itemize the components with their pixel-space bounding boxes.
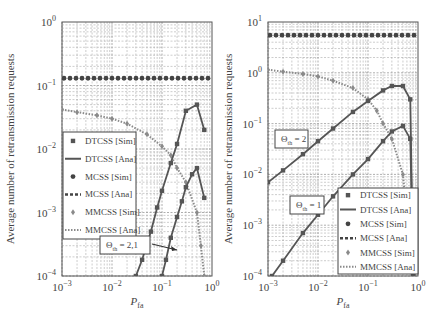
dtcss-marker xyxy=(169,236,173,240)
mcss-marker xyxy=(188,76,193,81)
mcss-marker xyxy=(74,76,79,81)
y-tick-label: 10−2 xyxy=(36,141,56,155)
mcss-marker xyxy=(80,76,85,81)
mmcss-marker xyxy=(199,243,203,249)
legend-label: MCSS [Ana] xyxy=(85,189,132,199)
mmcss-marker xyxy=(195,210,199,216)
dtcss-marker xyxy=(401,84,405,88)
dtcss-marker xyxy=(160,189,164,193)
y-tick-label: 10−3 xyxy=(36,205,56,219)
x-tick-label: 10−3 xyxy=(52,279,72,293)
dtcss-marker xyxy=(401,124,405,128)
mmcss-marker xyxy=(95,112,99,118)
dtcss-marker xyxy=(316,139,320,143)
threshold-annotation: Θth = 2 xyxy=(275,130,308,148)
mcss-marker xyxy=(406,33,411,38)
y-tick-label: 10−4 xyxy=(36,268,56,282)
mcss-marker xyxy=(92,76,97,81)
dtcss-marker xyxy=(202,128,206,132)
mcss-marker xyxy=(334,33,339,38)
threshold-annotation: Θth = 1 xyxy=(290,196,324,214)
dtcss-marker xyxy=(164,258,168,262)
dtcss-marker xyxy=(270,274,274,278)
legend-label: MMCSS [Sim] xyxy=(360,248,415,258)
dtcss-marker xyxy=(281,168,285,172)
mcss-marker xyxy=(116,76,121,81)
mmcss-marker xyxy=(390,136,394,142)
legend-square-icon xyxy=(71,139,75,143)
y-tick-label: 10−3 xyxy=(242,217,262,231)
mcss-marker xyxy=(140,76,145,81)
mcss-marker xyxy=(170,76,175,81)
dtcss-marker xyxy=(175,142,179,146)
mmcss-marker xyxy=(75,109,79,115)
dtcss-marker xyxy=(160,274,164,278)
mcss-marker xyxy=(376,33,381,38)
dtcss-marker xyxy=(381,88,385,92)
dtcss-line xyxy=(162,168,204,276)
mcss-marker xyxy=(110,76,115,81)
mmcss-marker xyxy=(266,67,270,73)
legend: DTCSS [Sim]DTCSS [Ana]MCSS [Sim]MCSS [An… xyxy=(63,132,140,239)
dtcss-marker xyxy=(408,137,412,141)
y-tick-label: 10−2 xyxy=(242,166,262,180)
mcss-marker xyxy=(164,76,169,81)
mcss-marker xyxy=(274,33,279,38)
dtcss-marker xyxy=(331,194,335,198)
legend-circle-icon xyxy=(346,221,351,226)
mcss-marker xyxy=(400,33,405,38)
dtcss-marker xyxy=(180,199,184,203)
mcss-marker xyxy=(304,33,309,38)
dtcss-marker xyxy=(351,172,355,176)
dtcss-marker xyxy=(184,185,188,189)
dtcss-marker xyxy=(390,129,394,133)
y-tick-label: 101 xyxy=(247,14,262,28)
mcss-marker xyxy=(412,33,417,38)
mmcss-marker xyxy=(301,71,305,77)
mmcss-marker xyxy=(281,69,285,75)
legend: DTCSS [Sim]DTCSS [Ana]MCSS [Sim]MCSS [An… xyxy=(338,188,418,274)
mcss-marker xyxy=(346,33,351,38)
dtcss-marker xyxy=(202,196,206,200)
chart-canvas: 10−310−210−110010−410−310−210−1100PfaAve… xyxy=(0,0,443,322)
mcss-marker xyxy=(86,76,91,81)
mmcss-marker xyxy=(60,106,64,112)
mcss-marker xyxy=(122,76,127,81)
y-tick-label: 10−1 xyxy=(36,78,56,92)
mcss-marker xyxy=(182,76,187,81)
mcss-marker xyxy=(352,33,357,38)
y-tick-label: 10−4 xyxy=(242,268,262,282)
mmcss-marker xyxy=(110,116,114,122)
legend-circle-icon xyxy=(71,174,76,179)
dtcss-marker xyxy=(266,180,270,184)
mcss-marker xyxy=(394,33,399,38)
mcss-marker xyxy=(388,33,393,38)
dtcss-marker xyxy=(331,126,335,130)
mmcss-marker xyxy=(331,78,335,84)
mcss-marker xyxy=(152,76,157,81)
dtcss-marker xyxy=(408,97,412,101)
legend-label: MMCSS [Sim] xyxy=(85,207,140,217)
x-tick-label: 10−1 xyxy=(152,279,172,293)
legend-label: MMCSS [Ana] xyxy=(360,262,415,272)
legend-label: MCSS [Sim] xyxy=(85,172,132,182)
legend-label: DTCSS [Sim] xyxy=(85,136,136,146)
dtcss-marker xyxy=(195,166,199,170)
dtcss-marker xyxy=(169,161,173,165)
dtcss-marker xyxy=(134,274,138,278)
mcss-marker xyxy=(358,33,363,38)
y-tick-label: 10−1 xyxy=(242,116,262,130)
dtcss-marker xyxy=(281,259,285,263)
y-axis-label: Average number of retransmission request… xyxy=(4,54,16,244)
dtcss-marker xyxy=(366,157,370,161)
mcss-marker xyxy=(286,33,291,38)
y-tick-label: 100 xyxy=(41,14,56,28)
dtcss-marker xyxy=(351,110,355,114)
left-plot: 10−310−210−110010−410−310−210−1100PfaAve… xyxy=(4,14,220,310)
dtcss-marker xyxy=(390,84,394,88)
mcss-marker xyxy=(158,76,163,81)
legend-label: DTCSS [Ana] xyxy=(85,154,136,164)
mcss-marker xyxy=(382,33,387,38)
x-axis-label: Pfa xyxy=(130,295,144,310)
dtcss-marker xyxy=(190,172,194,176)
